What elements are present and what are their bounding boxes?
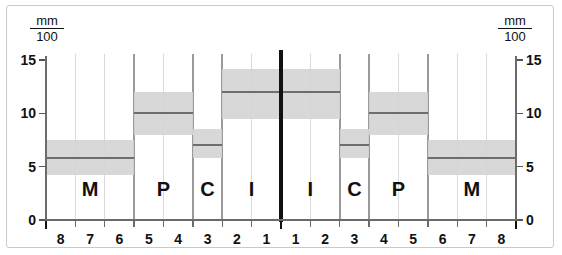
group-label-c-right: C: [338, 178, 370, 201]
unit-label-right: mm100: [498, 14, 532, 43]
x-tick-label: 1: [255, 231, 277, 247]
y-tick-mark: [39, 59, 45, 61]
x-tick-label: 8: [50, 231, 72, 247]
y-tick-label: 0: [10, 212, 36, 228]
unit-label-right-denominator: 100: [498, 28, 532, 43]
confidence-band: [281, 69, 340, 119]
x-tick-mark: [192, 221, 193, 227]
x-tick-label: 7: [79, 231, 101, 247]
group-label-i-left: I: [236, 178, 268, 201]
x-tick-label: 3: [197, 231, 219, 247]
y-tick-label: 10: [526, 105, 552, 121]
tooth-width-chart: mm100mm1000510150510158765432112345678MP…: [0, 0, 562, 255]
y-tick-mark: [517, 113, 523, 115]
x-tick-mark: [222, 221, 223, 227]
y-axis-left: [45, 56, 47, 221]
y-tick-label: 15: [10, 52, 36, 68]
median-line: [281, 91, 340, 93]
arch-midline: [279, 50, 283, 222]
group-separator: [427, 54, 429, 220]
y-tick-mark: [517, 59, 523, 61]
median-line: [222, 91, 281, 93]
x-tick-mark: [457, 221, 458, 227]
x-tick-mark: [486, 221, 487, 227]
median-line: [134, 112, 193, 114]
x-tick-label: 4: [373, 231, 395, 247]
x-tick-label: 8: [490, 231, 512, 247]
x-tick-mark: [163, 221, 164, 227]
group-label-m-right: M: [456, 178, 488, 201]
x-tick-label: 5: [138, 231, 160, 247]
unit-label-left-denominator: 100: [30, 28, 64, 43]
y-tick-mark: [39, 113, 45, 115]
median-line: [369, 112, 428, 114]
x-tick-mark: [427, 221, 428, 227]
y-tick-label: 10: [10, 105, 36, 121]
x-tick-label: 6: [432, 231, 454, 247]
x-tick-mark: [45, 221, 48, 229]
x-tick-mark: [75, 221, 76, 227]
median-line: [46, 157, 134, 159]
x-tick-mark: [104, 221, 105, 227]
median-line: [193, 144, 222, 146]
group-label-p-left: P: [148, 178, 180, 201]
median-line: [428, 157, 516, 159]
group-label-p-right: P: [383, 178, 415, 201]
y-tick-label: 0: [526, 212, 552, 228]
median-line: [340, 144, 369, 146]
x-tick-label: 5: [402, 231, 424, 247]
x-tick-mark: [133, 221, 134, 227]
unit-label-left-numerator: mm: [30, 14, 64, 28]
x-tick-mark: [398, 221, 399, 227]
x-tick-label: 4: [167, 231, 189, 247]
x-tick-mark: [251, 221, 252, 227]
x-tick-mark: [515, 221, 518, 229]
y-tick-mark: [517, 219, 523, 221]
y-tick-label: 5: [10, 159, 36, 175]
x-tick-mark: [339, 221, 340, 227]
confidence-band: [222, 69, 281, 119]
y-tick-mark: [517, 166, 523, 168]
x-tick-label: 7: [461, 231, 483, 247]
y-tick-label: 5: [526, 159, 552, 175]
unit-label-right-numerator: mm: [498, 14, 532, 28]
x-tick-label: 2: [314, 231, 336, 247]
group-label-m-left: M: [74, 178, 106, 201]
x-tick-mark: [280, 221, 283, 229]
x-tick-label: 1: [285, 231, 307, 247]
group-label-c-left: C: [192, 178, 224, 201]
x-tick-label: 3: [343, 231, 365, 247]
x-tick-mark: [310, 221, 311, 227]
x-tick-label: 6: [108, 231, 130, 247]
y-tick-label: 15: [526, 52, 552, 68]
x-tick-label: 2: [226, 231, 248, 247]
x-tick-mark: [368, 221, 369, 227]
y-axis-right: [515, 56, 517, 221]
group-separator: [133, 54, 135, 220]
group-label-i-right: I: [294, 178, 326, 201]
y-tick-mark: [39, 166, 45, 168]
unit-label-left: mm100: [30, 14, 64, 43]
